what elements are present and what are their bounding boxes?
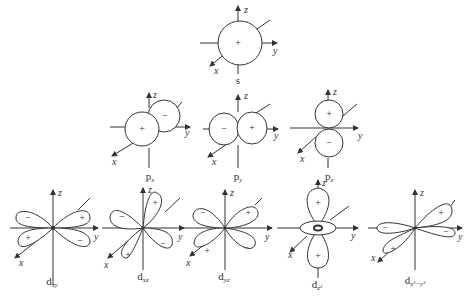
- svg-text:+: +: [315, 250, 321, 261]
- svg-text:x: x: [287, 249, 293, 260]
- svg-text:−: −: [221, 123, 227, 134]
- svg-text:dxz: dxz: [137, 270, 149, 284]
- svg-text:z: z: [57, 187, 62, 198]
- svg-text:x: x: [211, 156, 217, 167]
- orbital-dyz: − + + − z y x dyz: [183, 187, 272, 284]
- svg-text:x: x: [185, 257, 191, 268]
- svg-text:+: +: [315, 197, 321, 208]
- axis-label-y: y: [272, 45, 278, 56]
- svg-text:y: y: [273, 130, 279, 141]
- svg-text:pz: pz: [325, 170, 334, 184]
- svg-text:z: z: [147, 184, 152, 195]
- svg-text:z: z: [332, 86, 337, 97]
- svg-text:py: py: [234, 170, 244, 184]
- svg-text:y: y: [357, 130, 363, 141]
- svg-text:−: −: [243, 242, 249, 253]
- svg-text:−: −: [77, 235, 83, 246]
- svg-text:−: −: [382, 222, 388, 233]
- orbital-diagram: + z y x s + − z y x px − + z y x py: [0, 0, 475, 297]
- svg-text:z: z: [152, 89, 157, 100]
- svg-text:+: +: [438, 207, 444, 218]
- svg-text:y: y: [177, 231, 183, 242]
- svg-text:−: −: [162, 110, 168, 121]
- svg-text:dx²−y²: dx²−y²: [405, 274, 427, 288]
- svg-text:−: −: [443, 226, 449, 237]
- orbital-pz: + − z y x pz: [290, 86, 363, 184]
- svg-text:+: +: [390, 243, 396, 254]
- svg-text:z: z: [419, 187, 424, 198]
- orbital-s: + z y x s: [200, 4, 278, 86]
- svg-text:z: z: [243, 90, 248, 101]
- svg-text:y: y: [184, 127, 190, 138]
- orbital-dxy: − + + − z y x dxy: [10, 187, 99, 289]
- svg-text:−: −: [326, 137, 332, 148]
- sign-plus: +: [235, 37, 241, 48]
- svg-text:y: y: [93, 231, 99, 242]
- svg-text:z: z: [321, 177, 326, 188]
- svg-text:+: +: [245, 207, 251, 218]
- svg-text:x: x: [103, 259, 109, 270]
- svg-text:+: +: [204, 245, 210, 256]
- svg-text:+: +: [25, 232, 31, 243]
- svg-text:+: +: [125, 249, 131, 260]
- svg-text:x: x: [299, 153, 305, 164]
- svg-text:+: +: [152, 197, 158, 208]
- svg-text:z: z: [229, 187, 234, 198]
- svg-text:dxy: dxy: [46, 275, 59, 289]
- svg-text:dyz: dyz: [218, 270, 230, 284]
- svg-text:x: x: [370, 252, 376, 263]
- svg-text:x: x: [111, 156, 117, 167]
- orbital-dx2-y2: + − − + z y x dx²−y²: [368, 187, 463, 288]
- svg-text:+: +: [139, 123, 145, 134]
- svg-text:−: −: [25, 212, 31, 223]
- svg-text:dz²: dz²: [312, 278, 323, 292]
- svg-text:−: −: [119, 211, 125, 222]
- svg-text:+: +: [326, 108, 332, 119]
- orbital-label-s: s: [236, 74, 240, 86]
- svg-text:+: +: [79, 212, 85, 223]
- orbital-py: − + z y x py: [203, 90, 279, 184]
- orbital-dz2: + + z y x dz²: [277, 177, 358, 292]
- svg-text:y: y: [457, 231, 463, 242]
- svg-text:−: −: [200, 207, 206, 218]
- svg-text:y: y: [264, 231, 270, 242]
- svg-text:x: x: [18, 257, 24, 268]
- svg-text:−: −: [160, 238, 166, 249]
- orbital-px: + − z y x px: [110, 89, 190, 184]
- orbital-dxz: − + + − z y x dxz: [102, 184, 184, 284]
- svg-text:px: px: [146, 170, 156, 184]
- svg-text:y: y: [350, 230, 356, 241]
- svg-text:+: +: [249, 122, 255, 133]
- axis-label-x: x: [213, 65, 219, 76]
- axis-label-z: z: [243, 4, 248, 15]
